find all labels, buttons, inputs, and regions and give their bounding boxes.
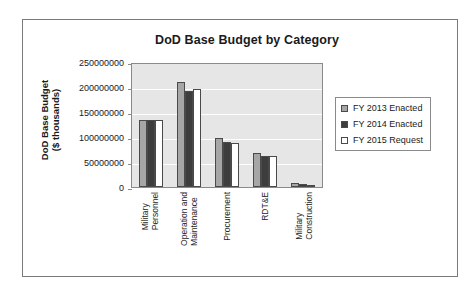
x-category-label-line: Military: [294, 192, 304, 240]
legend-item-label: FY 2013 Enacted: [353, 103, 422, 113]
bar-group: [253, 64, 277, 187]
x-category-label-text: Operation andMaintenance: [179, 192, 199, 246]
bar: [253, 153, 261, 187]
legend-item[interactable]: FY 2014 Enacted: [341, 119, 423, 129]
bar: [155, 120, 163, 188]
y-tick-label: 50000000: [84, 158, 124, 168]
x-category-label: Operation andMaintenance: [170, 192, 208, 272]
bar: [177, 82, 185, 187]
bar: [193, 89, 201, 188]
y-axis-tick-labels: 2500000002000000001500000001000000005000…: [51, 63, 127, 188]
legend-item[interactable]: FY 2015 Request: [341, 135, 423, 145]
x-category-label-line: Operation and: [179, 192, 189, 246]
legend-swatch-icon: [341, 105, 348, 112]
plot-area: [131, 63, 323, 188]
x-category-label-text: Procurement: [222, 192, 232, 241]
y-axis-title-line-1: DoD Base Budget: [39, 80, 51, 160]
bar: [147, 120, 155, 188]
bar: [215, 138, 223, 188]
bar: [269, 156, 277, 187]
bar-group: [177, 64, 201, 187]
bar: [299, 184, 307, 187]
x-category-label: Procurement: [208, 192, 246, 272]
x-category-label-text: MilitaryConstruction: [294, 192, 314, 240]
legend-item[interactable]: FY 2013 Enacted: [341, 103, 423, 113]
x-category-label-line: Construction: [304, 192, 314, 240]
x-category-label: RDT&E: [246, 192, 284, 272]
x-axis-category-labels: MilitaryPersonnelOperation andMaintenanc…: [131, 192, 323, 272]
y-tick-label: 0: [119, 183, 124, 193]
bar-series-container: [132, 64, 322, 187]
legend-item-label: FY 2014 Enacted: [353, 119, 422, 129]
bar-group: [215, 64, 239, 187]
bar: [261, 156, 269, 187]
x-category-label-line: Procurement: [222, 192, 232, 241]
y-tick-label: 250000000: [79, 58, 124, 68]
x-category-label-line: Military: [140, 192, 150, 230]
x-category-label-line: Maintenance: [189, 192, 199, 246]
bar-group: [291, 64, 315, 187]
x-category-label: MilitaryPersonnel: [131, 192, 169, 272]
y-tick-label: 200000000: [79, 83, 124, 93]
y-tick-label: 150000000: [79, 108, 124, 118]
bar: [307, 185, 315, 187]
bar-group: [139, 64, 163, 187]
x-category-label-text: RDT&E: [260, 192, 270, 221]
x-category-label: MilitaryConstruction: [285, 192, 323, 272]
y-axis-tick-mark: [128, 189, 132, 190]
x-category-label-line: Personnel: [150, 192, 160, 230]
bar: [139, 120, 147, 188]
legend-swatch-icon: [341, 121, 348, 128]
x-category-label-line: RDT&E: [260, 192, 270, 221]
legend-swatch-icon: [341, 137, 348, 144]
bar: [231, 143, 239, 187]
bar: [185, 91, 193, 187]
y-tick-label: 100000000: [79, 133, 124, 143]
x-category-label-text: MilitaryPersonnel: [140, 192, 160, 230]
chart-legend: FY 2013 EnactedFY 2014 EnactedFY 2015 Re…: [335, 97, 431, 151]
chart-title: DoD Base Budget by Category: [23, 33, 457, 47]
legend-item-label: FY 2015 Request: [353, 135, 423, 145]
chart-frame: DoD Base Budget by Category DoD Base Bud…: [22, 19, 458, 277]
bar: [291, 183, 299, 187]
bar: [223, 142, 231, 188]
